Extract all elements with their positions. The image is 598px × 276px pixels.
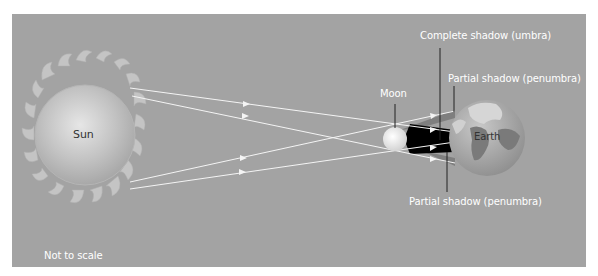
moon-icon bbox=[383, 127, 407, 151]
penumbra-bottom-label: Partial shadow (penumbra) bbox=[409, 196, 542, 207]
umbra-label: Complete shadow (umbra) bbox=[420, 30, 551, 41]
not-to-scale-note: Not to scale bbox=[44, 250, 102, 261]
sun-label: Sun bbox=[73, 128, 94, 141]
penumbra-top-label: Partial shadow (penumbra) bbox=[448, 73, 581, 84]
earth-label: Earth bbox=[474, 131, 500, 142]
moon-label: Moon bbox=[380, 88, 407, 99]
